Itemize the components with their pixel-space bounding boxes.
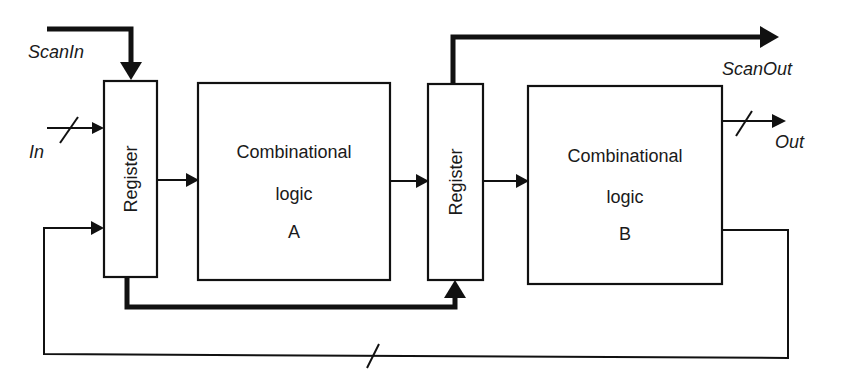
logic-b-line3: B bbox=[619, 224, 631, 244]
feedback-arrowhead-icon bbox=[91, 221, 104, 235]
logic-a-line3: A bbox=[288, 222, 300, 242]
scan-path-reg1-to-reg2 bbox=[127, 277, 466, 307]
input-arrowhead-icon bbox=[92, 122, 104, 134]
reg2-to-logic-b-wire bbox=[483, 174, 529, 188]
bus-slash-icon bbox=[60, 117, 78, 143]
logic-b-line1: Combinational bbox=[567, 146, 682, 166]
register-2-label: Register bbox=[446, 148, 466, 215]
logic-b-block: Combinational logic B bbox=[528, 86, 722, 284]
scan-in-label: ScanIn bbox=[28, 42, 84, 62]
reg1-to-logic-a-wire bbox=[157, 173, 199, 187]
scan-arrowhead-icon bbox=[444, 280, 466, 298]
output-label: Out bbox=[775, 132, 805, 152]
logic-a-line2: logic bbox=[275, 184, 312, 204]
register-1-block: Register bbox=[104, 81, 157, 277]
bus-slash-icon bbox=[736, 111, 752, 136]
input-bus bbox=[47, 117, 104, 143]
scan-out-arrowhead-icon bbox=[760, 26, 779, 48]
scan-in-arrowhead-icon bbox=[120, 62, 142, 80]
logic-a-block: Combinational logic A bbox=[198, 83, 390, 280]
logic-a-to-reg2-wire bbox=[390, 174, 429, 188]
register-2-block: Register bbox=[428, 84, 483, 280]
output-arrowhead-icon bbox=[772, 114, 786, 128]
logic-a-line1: Combinational bbox=[236, 142, 351, 162]
scan-out-label: ScanOut bbox=[722, 59, 793, 79]
input-label: In bbox=[29, 142, 44, 162]
scan-chain-diagram: ScanIn In Register Combinational logic A… bbox=[0, 0, 855, 390]
logic-b-line2: logic bbox=[606, 187, 643, 207]
register-1-label: Register bbox=[121, 145, 141, 212]
